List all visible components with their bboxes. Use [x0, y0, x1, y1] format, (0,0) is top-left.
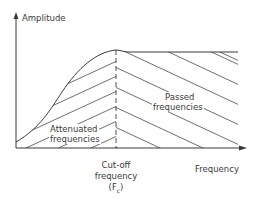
y-axis-arrow-icon — [14, 12, 19, 19]
x-axis-arrow-icon — [239, 146, 247, 151]
attenuated-label-line2: frequencies — [49, 134, 101, 144]
y-axis-label: Amplitude — [22, 13, 66, 23]
cutoff-label-line3: (Fc) — [86, 182, 146, 196]
cutoff-label-line1: Cut-off — [86, 160, 146, 170]
passed-label-line2: frequencies — [152, 102, 204, 112]
attenuated-label-line1: Attenuated — [49, 124, 99, 134]
cutoff-paren-close: ) — [120, 182, 123, 192]
cutoff-label-line2: frequency — [86, 171, 146, 181]
x-axis-label: Frequency — [195, 164, 239, 174]
cutoff-symbol: (F — [109, 182, 117, 192]
passed-label-line1: Passed — [164, 92, 195, 102]
